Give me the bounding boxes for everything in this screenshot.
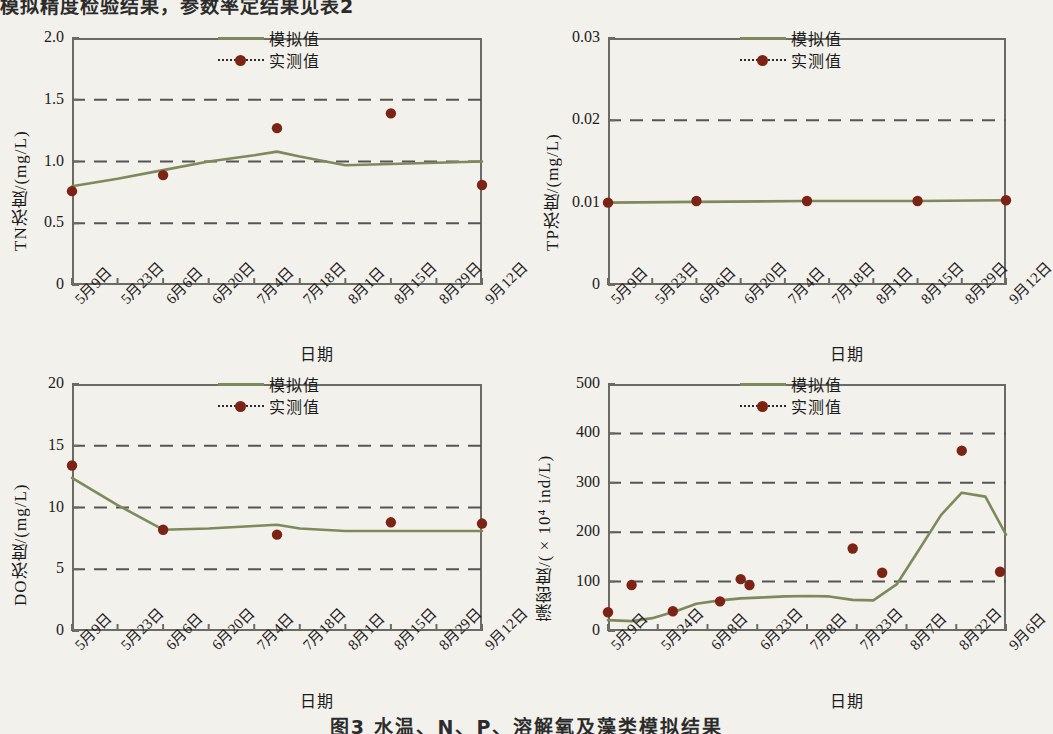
y-tick-marks <box>72 38 79 285</box>
y-tick-label: 500 <box>542 374 600 392</box>
data-point <box>158 170 168 180</box>
x-axis-label: 日期 <box>830 688 864 712</box>
data-point <box>67 460 77 470</box>
y-tick-label: 100 <box>542 572 600 590</box>
y-tick-label: 400 <box>542 423 600 441</box>
data-point <box>386 517 396 527</box>
y-tick-label: 0 <box>544 275 600 293</box>
y-tick-label: 0 <box>18 621 64 639</box>
data-point <box>877 568 887 578</box>
chart-panel-tp: TP浓度/(mg/L)00.010.020.035月9日5月23日6月6日6月2… <box>530 16 1053 361</box>
data-point <box>272 123 282 133</box>
series-line-simulated <box>72 152 482 187</box>
y-tick-label: 0.02 <box>544 110 600 128</box>
data-point <box>995 567 1005 577</box>
chart-legend: 模拟值实测值 <box>740 374 842 418</box>
legend-line-swatch <box>740 31 786 45</box>
legend-item-simulated: 模拟值 <box>740 28 842 48</box>
data-point <box>386 108 396 118</box>
data-point <box>1001 195 1011 205</box>
data-point <box>957 445 967 455</box>
data-point <box>626 580 636 590</box>
data-point <box>272 529 282 539</box>
chart-legend: 模拟值实测值 <box>740 28 842 72</box>
legend-label-simulated: 模拟值 <box>791 26 842 50</box>
legend-dot-swatch <box>218 53 264 67</box>
data-point <box>603 197 613 207</box>
legend-item-simulated: 模拟值 <box>218 28 320 48</box>
y-tick-label: 0 <box>18 275 64 293</box>
y-tick-label: 1.0 <box>18 152 64 170</box>
legend-label-simulated: 模拟值 <box>269 26 320 50</box>
legend-line-swatch <box>218 377 264 391</box>
y-tick-label: 200 <box>542 522 600 540</box>
y-tick-label: 10 <box>18 498 64 516</box>
legend-label-measured: 实测值 <box>791 394 842 418</box>
cropped-top-text: 模拟精度检验结果，参数率定结果见表2 <box>0 0 1053 16</box>
legend-label-simulated: 模拟值 <box>791 372 842 396</box>
gridlines <box>72 100 482 224</box>
legend-dot-swatch <box>218 399 264 413</box>
legend-line-swatch <box>740 377 786 391</box>
y-tick-label: 1.5 <box>18 90 64 108</box>
y-tick-label: 0.5 <box>18 213 64 231</box>
legend-item-measured: 实测值 <box>740 50 842 70</box>
data-point <box>848 543 858 553</box>
data-point <box>691 196 701 206</box>
legend-item-measured: 实测值 <box>218 50 320 70</box>
legend-label-measured: 实测值 <box>269 394 320 418</box>
legend-item-simulated: 模拟值 <box>740 374 842 394</box>
data-point <box>744 580 754 590</box>
series-line-simulated <box>72 478 482 531</box>
data-point <box>603 607 613 617</box>
legend-item-measured: 实测值 <box>218 396 320 416</box>
legend-label-measured: 实测值 <box>269 48 320 72</box>
y-tick-label: 0.01 <box>544 193 600 211</box>
y-tick-label: 0 <box>542 621 600 639</box>
data-point <box>158 525 168 535</box>
y-tick-label: 0.03 <box>544 28 600 46</box>
legend-dot-swatch <box>740 53 786 67</box>
chart-panel-do: DO浓度/(mg/L)051015205月9日5月23日6月6日6月20日7月4… <box>0 366 530 711</box>
data-point <box>477 180 487 190</box>
chart-legend: 模拟值实测值 <box>218 28 320 72</box>
series-line-simulated <box>608 493 1006 621</box>
legend-dot-swatch <box>740 399 786 413</box>
data-point <box>477 518 487 528</box>
gridlines <box>72 446 482 570</box>
x-axis-label: 日期 <box>300 688 334 712</box>
chart-panel-tn: TN浓度/(mg/L)00.51.01.52.05月9日5月23日6月6日6月2… <box>0 16 530 361</box>
y-axis-label: TP浓度/(mg/L) <box>540 61 565 251</box>
x-axis-label: 日期 <box>300 341 334 365</box>
legend-item-simulated: 模拟值 <box>218 374 320 394</box>
legend-label-simulated: 模拟值 <box>269 372 320 396</box>
y-tick-label: 300 <box>542 473 600 491</box>
legend-line-swatch <box>218 31 264 45</box>
y-tick-label: 2.0 <box>18 28 64 46</box>
figure-page: 模拟精度检验结果，参数率定结果见表2 TN浓度/(mg/L)00.51.01.5… <box>0 0 1053 734</box>
series-points-measured <box>67 460 487 540</box>
data-point <box>668 606 678 616</box>
chart-panel-algae: 藻密度/(×10⁴ ind/L)01002003004005005月9日5月24… <box>530 366 1053 711</box>
y-tick-label: 15 <box>18 436 64 454</box>
data-point <box>802 196 812 206</box>
legend-item-measured: 实测值 <box>740 396 842 416</box>
chart-legend: 模拟值实测值 <box>218 374 320 418</box>
y-tick-marks <box>72 384 79 631</box>
data-point <box>715 596 725 606</box>
data-point <box>912 196 922 206</box>
figure-caption: 图3 水温、N、P、溶解氧及藻类模拟结果 <box>0 716 1053 734</box>
data-point <box>735 574 745 584</box>
y-tick-marks <box>608 38 615 285</box>
y-tick-marks <box>608 384 615 631</box>
data-point <box>67 186 77 196</box>
legend-label-measured: 实测值 <box>791 48 842 72</box>
y-tick-label: 5 <box>18 559 64 577</box>
y-tick-label: 20 <box>18 374 64 392</box>
x-axis-label: 日期 <box>830 341 864 365</box>
